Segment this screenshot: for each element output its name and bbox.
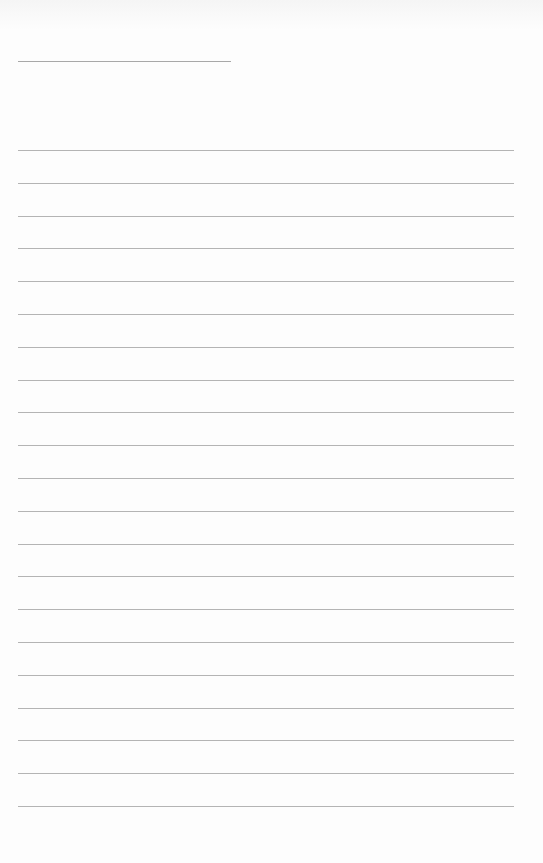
ruled-line xyxy=(18,511,514,512)
ruled-line xyxy=(18,708,514,709)
ruled-line xyxy=(18,576,514,577)
bleed-through-shadow xyxy=(0,0,543,30)
ruled-line xyxy=(18,806,514,807)
title-line xyxy=(18,61,231,62)
ruled-line xyxy=(18,183,514,184)
ruled-line xyxy=(18,248,514,249)
ruled-line xyxy=(18,347,514,348)
ruled-line xyxy=(18,445,514,446)
ruled-line xyxy=(18,544,514,545)
ruled-line xyxy=(18,150,514,151)
ruled-line xyxy=(18,478,514,479)
ruled-line xyxy=(18,216,514,217)
ruled-line xyxy=(18,773,514,774)
ruled-line xyxy=(18,740,514,741)
ruled-line xyxy=(18,412,514,413)
ruled-line xyxy=(18,380,514,381)
ruled-line xyxy=(18,642,514,643)
ruled-line xyxy=(18,609,514,610)
ruled-line xyxy=(18,281,514,282)
ruled-line xyxy=(18,675,514,676)
ruled-line xyxy=(18,314,514,315)
